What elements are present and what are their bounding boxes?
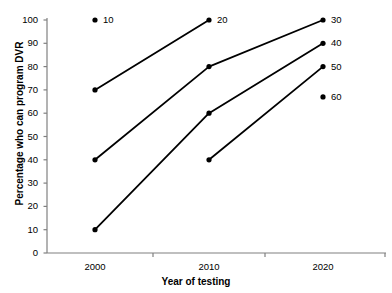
- data-point-marker: [206, 111, 211, 116]
- y-tick-label: 50: [10, 132, 38, 142]
- x-tick-label: 2010: [179, 262, 239, 272]
- data-point-marker: [320, 64, 325, 69]
- y-tick-label: 100: [10, 15, 38, 25]
- chart-figure: Percentage who can program DVR Year of t…: [0, 0, 392, 293]
- x-axis-title: Year of testing: [0, 276, 392, 287]
- y-tick-label: 70: [10, 85, 38, 95]
- series-line: [209, 67, 323, 160]
- data-point-marker: [320, 41, 325, 46]
- y-tick-label: 30: [10, 178, 38, 188]
- data-point-label: 40: [331, 38, 342, 48]
- chart-axes: [47, 18, 386, 253]
- y-tick-label: 0: [10, 248, 38, 258]
- data-point-label: 50: [331, 62, 342, 72]
- x-axis-ticks: [153, 253, 385, 257]
- data-point-marker: [320, 17, 325, 22]
- y-tick-label: 20: [10, 201, 38, 211]
- chart-series-lines: [95, 20, 323, 230]
- data-point-marker: [206, 157, 211, 162]
- y-tick-label: 60: [10, 108, 38, 118]
- data-point-marker: [92, 87, 97, 92]
- series-line: [95, 43, 323, 229]
- x-tick-label: 2020: [293, 262, 353, 272]
- data-point-marker: [206, 64, 211, 69]
- x-tick-label: 2000: [65, 262, 125, 272]
- y-tick-label: 80: [10, 62, 38, 72]
- data-point-marker: [92, 157, 97, 162]
- data-point-label: 20: [217, 15, 228, 25]
- data-point-label: 60: [331, 92, 342, 102]
- y-tick-label: 40: [10, 155, 38, 165]
- data-point-label: 30: [331, 15, 342, 25]
- y-tick-label: 90: [10, 38, 38, 48]
- data-point-marker: [92, 17, 97, 22]
- data-point-marker: [92, 227, 97, 232]
- data-point-marker: [320, 94, 325, 99]
- chart-data-markers: [92, 17, 325, 232]
- series-line: [95, 20, 323, 160]
- y-tick-label: 10: [10, 225, 38, 235]
- data-point-marker: [206, 17, 211, 22]
- series-line: [95, 20, 209, 90]
- data-point-label: 10: [103, 15, 114, 25]
